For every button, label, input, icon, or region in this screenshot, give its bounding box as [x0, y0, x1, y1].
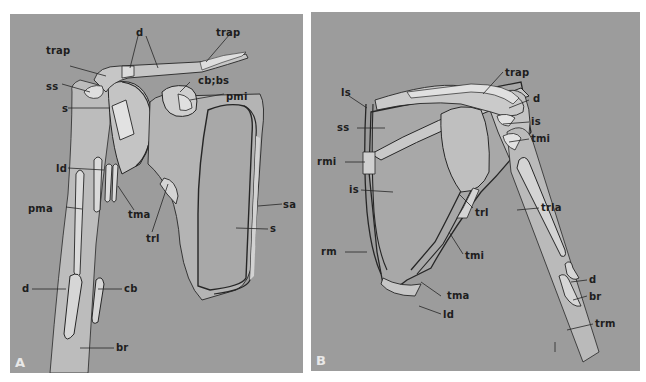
- label-sa: sa: [283, 200, 296, 210]
- label-ss: ss: [46, 82, 58, 92]
- label-tma: tma: [128, 210, 151, 220]
- label-trap: trap: [46, 46, 70, 56]
- label-br: br: [116, 343, 129, 353]
- shoulder-anterior-illustration: [10, 14, 303, 373]
- label-cb-bs: cb;bs: [198, 76, 229, 86]
- label-trl: trl: [475, 208, 489, 218]
- label-tmi-mid: tmi: [465, 251, 484, 261]
- label-s-right: s: [270, 224, 276, 234]
- label-is-mid: is: [349, 185, 359, 195]
- label-tma: tma: [447, 291, 470, 301]
- label-trl: trl: [146, 234, 160, 244]
- label-trap-right: trap: [216, 28, 240, 38]
- label-cb: cb: [124, 284, 138, 294]
- label-d-top: d: [136, 28, 143, 38]
- label-d-bottom: d: [589, 275, 596, 285]
- label-trap: trap: [505, 68, 529, 78]
- label-ls: ls: [341, 88, 351, 98]
- label-d-bottom: d: [22, 284, 29, 294]
- label-ss: ss: [337, 123, 349, 133]
- label-trm: trm: [595, 319, 616, 329]
- label-ld: ld: [443, 310, 454, 320]
- label-tmi-top: tmi: [531, 134, 550, 144]
- panel-letter-b: B: [316, 354, 326, 367]
- label-pmi: pmi: [226, 92, 248, 102]
- label-is-top: is: [531, 117, 541, 127]
- label-s-left: s: [62, 104, 68, 114]
- label-rm: rm: [321, 247, 337, 257]
- label-trla: trla: [541, 203, 562, 213]
- label-pma: pma: [28, 204, 53, 214]
- label-br: br: [589, 292, 602, 302]
- label-rmi: rmi: [317, 157, 336, 167]
- label-d: d: [533, 94, 540, 104]
- shoulder-posterior-illustration: [311, 12, 640, 371]
- panel-letter-a: A: [15, 356, 25, 369]
- panel-a-anterior-view: trap d trap ss s cb;bs pmi ld tma pma tr…: [10, 14, 303, 373]
- panel-b-posterior-view: trap ls d ss is tmi rmi is trl trla rm t…: [311, 12, 640, 371]
- label-ld: ld: [56, 164, 67, 174]
